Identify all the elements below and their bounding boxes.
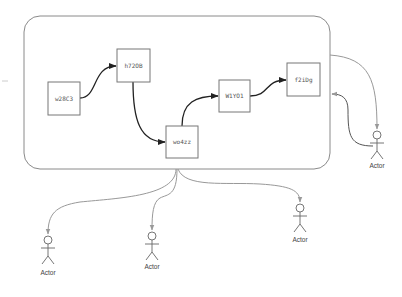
node-f2iDg[interactable]: f2iDg (287, 63, 320, 96)
edge-container-actor-bottom-right[interactable] (178, 169, 300, 202)
edge-h72OB-wo4zz[interactable] (133, 82, 165, 142)
edge-w28C3-h72OB[interactable] (80, 66, 116, 98)
actor-label: Actor (369, 162, 385, 169)
actor-stick-figure-icon (293, 204, 307, 232)
actor-label: Actor (144, 263, 160, 270)
node-label: w28C3 (55, 95, 73, 102)
actor-label: Actor (292, 236, 308, 243)
actor-label: Actor (40, 269, 56, 276)
node-label: W1YO1 (225, 92, 243, 99)
edge-wo4zz-W1YO1[interactable] (182, 96, 218, 126)
node-W1YO1[interactable]: W1YO1 (219, 80, 250, 112)
node-wo4zz[interactable]: wo4zz (166, 126, 198, 158)
node-w28C3[interactable]: w28C3 (48, 82, 80, 115)
actor-stick-figure-icon (145, 232, 159, 260)
actor-bottom-middle[interactable]: Actor (144, 232, 160, 270)
actor-right[interactable]: Actor (369, 131, 385, 169)
actor-stick-figure-icon (370, 131, 384, 159)
actor-bottom-left[interactable]: Actor (40, 236, 56, 276)
node-label: wo4zz (173, 138, 191, 145)
diagram-canvas: w28C3 h72OB wo4zz W1YO1 f2iDg Actor (0, 0, 402, 297)
node-label: f2iDg (294, 76, 312, 84)
external-edges (48, 55, 377, 234)
actor-stick-figure-icon (41, 236, 55, 264)
actor-bottom-right[interactable]: Actor (292, 204, 308, 243)
edge-W1YO1-f2iDg[interactable] (250, 80, 286, 96)
edge-actor-right-container[interactable] (332, 94, 373, 146)
node-h72OB[interactable]: h72OB (117, 49, 150, 82)
edge-container-actor-right[interactable] (330, 55, 377, 129)
node-label: h72OB (124, 62, 142, 69)
